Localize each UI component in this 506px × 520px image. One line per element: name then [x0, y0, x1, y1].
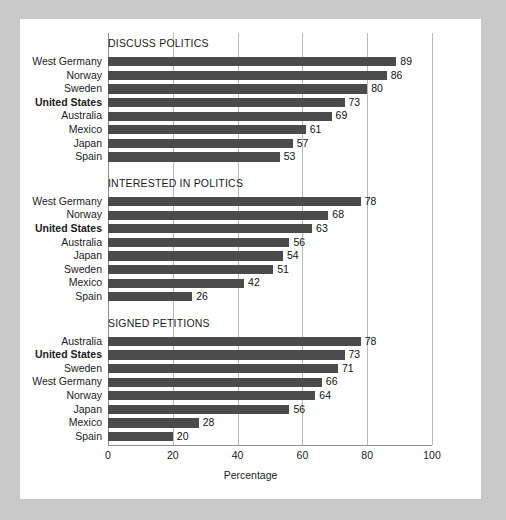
x-tick-label-100: 100 — [423, 449, 441, 461]
panel-rows: West Germany89Norway86Sweden80United Sta… — [20, 55, 481, 164]
panel-title: SIGNED PETITIONS — [108, 317, 210, 329]
bar-row: Mexico61 — [20, 123, 481, 137]
bar-track: 54 — [108, 249, 432, 263]
bar-row: Australia69 — [20, 109, 481, 123]
panel-title: INTERESTED IN POLITICS — [108, 177, 243, 189]
bar-row: Norway64 — [20, 389, 481, 403]
x-axis-title: Percentage — [20, 469, 481, 481]
bar-value-label: 42 — [244, 276, 260, 290]
bar-row: Japan54 — [20, 249, 481, 263]
bar-track: 56 — [108, 236, 432, 250]
category-label: West Germany — [32, 55, 108, 69]
category-label: Mexico — [69, 123, 108, 137]
bar-row: Japan56 — [20, 403, 481, 417]
panel-rows: Australia78United States73Sweden71West G… — [20, 335, 481, 444]
bar-value-label: 64 — [315, 389, 331, 403]
bar-track: 26 — [108, 290, 432, 304]
category-label: Norway — [66, 69, 108, 83]
bar-track: 78 — [108, 195, 432, 209]
bar-value-label: 73 — [345, 96, 361, 110]
bar-row: Japan57 — [20, 137, 481, 151]
bar — [108, 350, 345, 359]
bar-value-label: 57 — [293, 137, 309, 151]
bar — [108, 224, 312, 233]
bar-track: 64 — [108, 389, 432, 403]
bar-row: Norway86 — [20, 69, 481, 83]
bar-value-label: 89 — [396, 55, 412, 69]
x-tick-label-20: 20 — [167, 449, 179, 461]
bar-row: Mexico28 — [20, 416, 481, 430]
bar — [108, 251, 283, 260]
bar-track: 51 — [108, 263, 432, 277]
bar-track: 69 — [108, 109, 432, 123]
category-label: Sweden — [64, 82, 108, 96]
x-tick-label-0: 0 — [105, 449, 111, 461]
x-tick-label-40: 40 — [232, 449, 244, 461]
bar-value-label: 56 — [289, 236, 305, 250]
panel-rows: West Germany78Norway68United States63Aus… — [20, 195, 481, 304]
category-label: Australia — [61, 236, 108, 250]
category-label: Spain — [75, 150, 108, 164]
category-label: Japan — [73, 137, 108, 151]
bar-row: Mexico42 — [20, 276, 481, 290]
bar — [108, 57, 396, 66]
category-label: Japan — [73, 403, 108, 417]
chart-panel: DISCUSS POLITICSWest Germany89Norway86Sw… — [20, 37, 481, 164]
bar-value-label: 86 — [387, 69, 403, 83]
bar-track: 42 — [108, 276, 432, 290]
bar-track: 73 — [108, 348, 432, 362]
bar-track: 89 — [108, 55, 432, 69]
bar-track: 28 — [108, 416, 432, 430]
bar-value-label: 53 — [280, 150, 296, 164]
bar-row: Australia78 — [20, 335, 481, 349]
bar-row: United States63 — [20, 222, 481, 236]
bar — [108, 98, 345, 107]
grouped-bar-chart: DISCUSS POLITICSWest Germany89Norway86Sw… — [20, 19, 481, 499]
category-label: Mexico — [69, 416, 108, 430]
bar-row: West Germany78 — [20, 195, 481, 209]
bar-value-label: 69 — [332, 109, 348, 123]
bar — [108, 84, 367, 93]
bar — [108, 432, 173, 441]
bar-track: 86 — [108, 69, 432, 83]
bar — [108, 139, 293, 148]
bar-row: United States73 — [20, 96, 481, 110]
bar-track: 78 — [108, 335, 432, 349]
category-label: Sweden — [64, 362, 108, 376]
chart-panel: INTERESTED IN POLITICSWest Germany78Norw… — [20, 177, 481, 304]
bar-track: 61 — [108, 123, 432, 137]
bar — [108, 405, 289, 414]
chart-card: DISCUSS POLITICSWest Germany89Norway86Sw… — [20, 19, 481, 499]
bar-track: 20 — [108, 430, 432, 444]
bar-track: 80 — [108, 82, 432, 96]
bar-row: United States73 — [20, 348, 481, 362]
bar — [108, 418, 199, 427]
category-label: Spain — [75, 290, 108, 304]
bar-row: Spain26 — [20, 290, 481, 304]
bar-value-label: 28 — [199, 416, 215, 430]
bar — [108, 152, 280, 161]
bar-value-label: 66 — [322, 375, 338, 389]
bar — [108, 265, 273, 274]
chart-panel: SIGNED PETITIONSAustralia78United States… — [20, 317, 481, 444]
category-label: Spain — [75, 430, 108, 444]
bar-row: Spain53 — [20, 150, 481, 164]
bar-value-label: 26 — [192, 290, 208, 304]
bar-value-label: 73 — [345, 348, 361, 362]
bar — [108, 279, 244, 288]
bar-value-label: 56 — [289, 403, 305, 417]
bar-value-label: 63 — [312, 222, 328, 236]
category-label: United States — [35, 348, 108, 362]
bar-track: 68 — [108, 208, 432, 222]
bar-track: 56 — [108, 403, 432, 417]
bar-track: 73 — [108, 96, 432, 110]
bar — [108, 238, 289, 247]
bar — [108, 391, 315, 400]
bar-row: Australia56 — [20, 236, 481, 250]
bar-row: West Germany66 — [20, 375, 481, 389]
bar-value-label: 78 — [361, 335, 377, 349]
x-tick-label-60: 60 — [297, 449, 309, 461]
x-tick-label-80: 80 — [361, 449, 373, 461]
category-label: Mexico — [69, 276, 108, 290]
bar-value-label: 78 — [361, 195, 377, 209]
